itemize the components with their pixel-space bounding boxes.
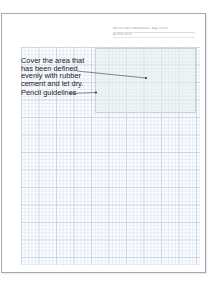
defined-area-rectangle	[95, 48, 196, 113]
header-author: By Peter Stern	[113, 33, 195, 38]
page-header: Still Life with a Writing Desk · Page 4 …	[113, 27, 195, 38]
annotation-pencil-guidelines: Pencil guidelines	[21, 89, 76, 97]
annotation-rubber-cement: Cover the area that has been defined eve…	[21, 57, 95, 87]
